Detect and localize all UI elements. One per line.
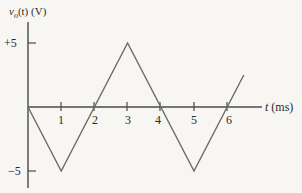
x-tick-label-6: 6 [226, 113, 232, 127]
x-tick-label-5: 5 [191, 113, 197, 127]
y-tick-label-minus5: −5 [8, 164, 21, 178]
x-axis-label: t (ms) [265, 100, 293, 114]
y-tick-label-plus5: +5 [4, 36, 17, 50]
x-tick-label-4: 4 [155, 113, 161, 127]
x-tick-label-2: 2 [92, 113, 98, 127]
x-tick-label-3: 3 [125, 113, 131, 127]
x-tick-label-1: 1 [58, 113, 64, 127]
triangle-wave-chart: vo(t) (V) +5 −5 1 2 3 4 5 6 t (ms) [0, 0, 302, 193]
y-axis-label: vo(t) (V) [9, 5, 47, 20]
